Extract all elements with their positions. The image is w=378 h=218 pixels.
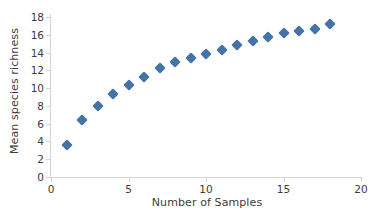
y-tick-label: 16 bbox=[31, 29, 44, 41]
data-point bbox=[92, 100, 103, 111]
y-tick-mark bbox=[46, 17, 50, 18]
y-tick-mark bbox=[46, 159, 50, 160]
y-axis-title: Mean species richness bbox=[3, 2, 25, 180]
y-tick-mark bbox=[46, 35, 50, 36]
x-tick-mark bbox=[51, 178, 52, 182]
y-tick-mark bbox=[46, 141, 50, 142]
y-tick-label: 2 bbox=[37, 153, 44, 165]
data-point bbox=[247, 35, 258, 46]
y-tick-mark bbox=[46, 177, 50, 178]
x-tick-label: 10 bbox=[199, 183, 212, 195]
x-tick-label: 20 bbox=[354, 183, 367, 195]
x-tick-label: 15 bbox=[277, 183, 290, 195]
x-tick-mark bbox=[284, 178, 285, 182]
y-tick-label: 8 bbox=[37, 100, 44, 112]
y-tick-label: 0 bbox=[37, 171, 44, 183]
data-point bbox=[154, 62, 165, 73]
data-point bbox=[216, 44, 227, 55]
data-point bbox=[278, 28, 289, 39]
data-point bbox=[169, 57, 180, 68]
y-tick-mark bbox=[46, 53, 50, 54]
x-tick-label: 0 bbox=[48, 183, 55, 195]
data-point bbox=[61, 139, 72, 150]
data-point bbox=[324, 18, 335, 29]
x-tick-label: 5 bbox=[125, 183, 132, 195]
x-tick-mark bbox=[361, 178, 362, 182]
x-axis-title: Number of Samples bbox=[52, 196, 362, 209]
y-tick-label: 12 bbox=[31, 64, 44, 76]
data-point bbox=[185, 52, 196, 63]
y-axis-line bbox=[50, 14, 51, 177]
y-tick-mark bbox=[46, 106, 50, 107]
data-point bbox=[293, 26, 304, 37]
y-tick-mark bbox=[46, 70, 50, 71]
x-tick-mark bbox=[129, 178, 130, 182]
species-accumulation-chart: Mean species richness 024681012141618 05… bbox=[0, 0, 378, 218]
data-point bbox=[138, 71, 149, 82]
y-tick-label: 18 bbox=[31, 11, 44, 23]
data-point bbox=[309, 23, 320, 34]
x-tick-mark bbox=[206, 178, 207, 182]
y-tick-label: 4 bbox=[37, 135, 44, 147]
y-tick-mark bbox=[46, 124, 50, 125]
y-tick-label: 14 bbox=[31, 47, 44, 59]
y-tick-mark bbox=[46, 88, 50, 89]
data-point bbox=[231, 40, 242, 51]
data-point bbox=[200, 48, 211, 59]
y-tick-label: 10 bbox=[31, 82, 44, 94]
y-tick-label: 6 bbox=[37, 118, 44, 130]
data-point bbox=[123, 79, 134, 90]
plot-area: 024681012141618 05101520 bbox=[51, 17, 361, 177]
data-point bbox=[262, 32, 273, 43]
data-point bbox=[107, 88, 118, 99]
data-point bbox=[76, 114, 87, 125]
